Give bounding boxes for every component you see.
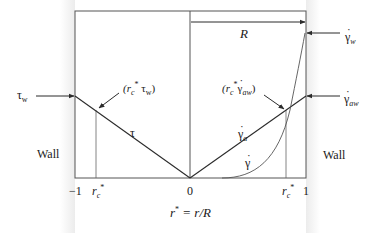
x-axis-title: r* = r/R [170,207,211,219]
tick-minus-one: −1 [69,185,82,197]
radius-label: R [240,28,248,40]
tau-w-label: τw [17,89,28,101]
tick-left-rc: rc* [92,185,104,197]
gamma-curve-label: γ [245,157,250,169]
point-left-label: (rc* τw) [123,82,155,94]
gamma-a-label: γa [238,128,247,140]
tick-zero: 0 [187,185,193,197]
point-right-pointer [264,95,284,109]
tick-right-rc: rc* [282,185,294,197]
gamma-aw-label: γaw [344,93,359,105]
right-wall-label: Wall [323,149,345,161]
diagram-canvas [0,0,373,233]
point-left-pointer [99,93,119,108]
tick-one: 1 [303,185,309,197]
point-right-label: (rc* γaw) [222,82,255,94]
gamma-w-label: γw [345,31,356,43]
left-wall-label: Wall [37,148,59,160]
tau-line-label: τ [130,127,135,139]
